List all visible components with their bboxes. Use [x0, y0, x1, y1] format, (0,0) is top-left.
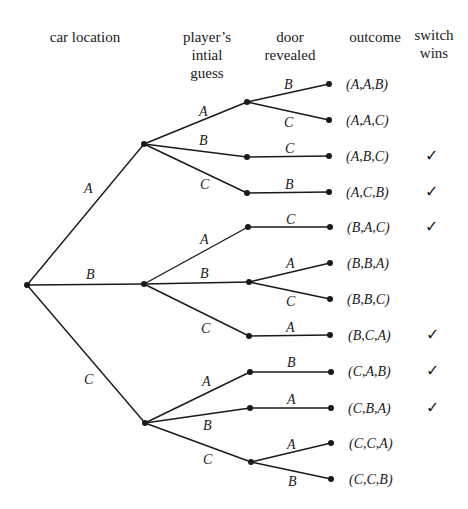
edge-label-rev-ca: B: [287, 355, 296, 370]
outcome-11: (C,C,A): [349, 436, 393, 452]
edge-label-rev-bc: A: [285, 320, 295, 335]
switch-wins-marks: ✓ ✓ ✓ ✓ ✓ ✓: [425, 146, 439, 417]
edge-label-guess-bb: B: [200, 266, 209, 281]
check-icon: ✓: [426, 398, 439, 417]
outcome-4: (A,C,B): [346, 185, 389, 201]
outcome-2: (A,A,C): [346, 113, 389, 129]
edge-label-rev-aa-1: B: [284, 77, 293, 92]
edge-label-rev-ac: B: [285, 177, 294, 192]
edge-label-rev-cb: A: [286, 392, 296, 407]
edge-label-guess-bc: C: [201, 321, 211, 336]
check-icon: ✓: [426, 361, 439, 380]
edge-label-rev-ab: C: [285, 141, 295, 156]
edge-label-car-c: C: [84, 372, 94, 387]
outcome-3: (A,B,C): [346, 149, 389, 165]
outcome-12: (C,C,B): [349, 472, 393, 488]
check-icon: ✓: [426, 325, 439, 344]
edge-label-car-a: A: [83, 181, 93, 196]
edge-label-rev-ba: C: [286, 212, 296, 227]
outcome-5: (B,A,C): [347, 220, 390, 236]
edge-label-guess-ba: A: [199, 232, 209, 247]
outcome-9: (C,A,B): [348, 364, 391, 380]
check-icon: ✓: [425, 217, 438, 236]
outcome-10: (C,B,A): [348, 401, 391, 417]
edge-label-guess-ca: A: [201, 374, 211, 389]
edge-label-rev-bb-2: C: [286, 294, 296, 309]
edge-label-guess-cc: C: [203, 452, 213, 467]
edge-label-guess-cb: B: [203, 418, 212, 433]
check-icon: ✓: [425, 182, 438, 201]
check-icon: ✓: [425, 146, 438, 165]
edge-label-guess-aa: A: [198, 104, 208, 119]
edge-label-rev-bb-1: A: [285, 256, 295, 271]
edge-label-car-b: B: [86, 267, 95, 282]
outcome-labels: (A,A,B) (A,A,C) (A,B,C) (A,C,B) (B,A,C) …: [346, 77, 393, 488]
edge-label-rev-cc-1: A: [286, 437, 296, 452]
outcome-8: (B,C,A): [348, 328, 391, 344]
probability-tree: A B C A B C A B C A B C B C C B C A C A …: [0, 0, 468, 509]
outcome-1: (A,A,B): [346, 77, 388, 93]
edge-label-rev-aa-2: C: [284, 115, 294, 130]
guess-edges: [144, 102, 251, 462]
outcome-6: (B,B,A): [347, 256, 389, 272]
edge-label-guess-ac: C: [200, 177, 210, 192]
edge-label-guess-ab: B: [199, 133, 208, 148]
edge-label-rev-cc-2: B: [288, 474, 297, 489]
outcome-7: (B,B,C): [347, 292, 390, 308]
